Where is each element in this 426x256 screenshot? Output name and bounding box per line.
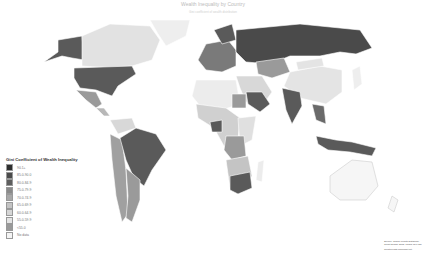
region-japan: [352, 66, 362, 90]
map-legend: Gini Coefficient of Wealth Inequality 90…: [6, 157, 86, 239]
legend-swatch: [6, 202, 13, 209]
legend-item: No data: [6, 232, 86, 240]
region-alaska: [44, 36, 84, 62]
region-nigeria: [210, 120, 222, 132]
legend-swatch: [6, 232, 13, 239]
legend-item: 75.0-79.9: [6, 187, 86, 195]
region-kazakhstan: [256, 58, 290, 78]
legend-label: 70.0-74.9: [17, 196, 31, 200]
legend-title: Gini Coefficient of Wealth Inequality: [6, 157, 86, 162]
region-scandinavia: [214, 24, 236, 44]
region-europe: [198, 40, 236, 72]
legend-swatch: [6, 187, 13, 194]
legend-label: <55.0: [17, 226, 26, 230]
legend-label: 85.0-90.0: [17, 173, 31, 177]
legend-item: 60.0-64.9: [6, 209, 86, 217]
region-central-america: [96, 108, 110, 116]
region-new-zealand: [388, 196, 398, 212]
credit-note: Created with mapchart.net: [384, 248, 424, 251]
region-se-asia: [312, 104, 326, 124]
legend-item: 85.0-90.0: [6, 172, 86, 180]
source-note: Source: Global Wealth Databook, Credit S…: [384, 240, 424, 246]
legend-swatch: [6, 194, 13, 201]
legend-item: 80.0-84.9: [6, 179, 86, 187]
legend-swatch: [6, 217, 13, 224]
region-canada: [82, 24, 160, 68]
region-drc: [224, 136, 246, 160]
region-south-africa: [230, 172, 252, 194]
region-russia: [236, 24, 372, 64]
region-indonesia: [316, 136, 376, 156]
legend-label: 75.0-79.9: [17, 188, 31, 192]
legend-swatch: [6, 164, 13, 171]
legend-item: 70.0-74.9: [6, 194, 86, 202]
legend-label: 65.0-69.9: [17, 203, 31, 207]
legend-item: 65.0-69.9: [6, 202, 86, 210]
legend-label: No data: [17, 233, 29, 237]
legend-label: 80.0-84.9: [17, 181, 31, 185]
legend-swatch: [6, 179, 13, 186]
legend-swatch: [6, 209, 13, 216]
legend-label: 90.1+: [17, 166, 26, 170]
region-australia: [330, 160, 378, 200]
legend-label: 55.0-59.9: [17, 218, 31, 222]
legend-item: 90.1+: [6, 164, 86, 172]
legend-label: 60.0-64.9: [17, 211, 31, 215]
region-madagascar: [256, 160, 264, 182]
legend-swatch: [6, 224, 13, 231]
region-india: [282, 88, 302, 124]
region-egypt: [232, 94, 246, 108]
region-mexico: [76, 90, 102, 108]
legend-item: 55.0-59.9: [6, 217, 86, 225]
legend-item: <55.0: [6, 224, 86, 232]
legend-swatch: [6, 172, 13, 179]
